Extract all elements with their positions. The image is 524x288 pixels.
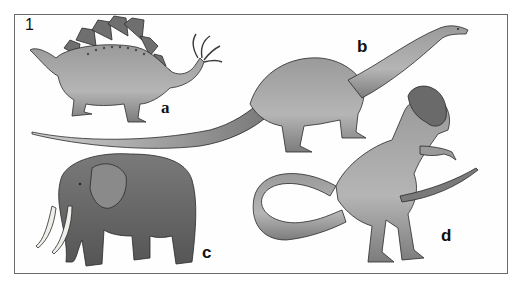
label-c: c (202, 244, 211, 261)
brontosaurus-tail (32, 100, 272, 148)
label-a: a (161, 99, 170, 116)
label-d: d (441, 227, 451, 244)
tyrannosaurus-tail (253, 174, 346, 241)
panel-number: 1 (25, 17, 34, 33)
stegosaurus-drawing (30, 16, 222, 122)
elephant-tusk (36, 206, 56, 248)
tyrannosaurus-arm (420, 146, 456, 160)
elephant-drawing (36, 154, 196, 266)
label-b: b (357, 38, 367, 55)
